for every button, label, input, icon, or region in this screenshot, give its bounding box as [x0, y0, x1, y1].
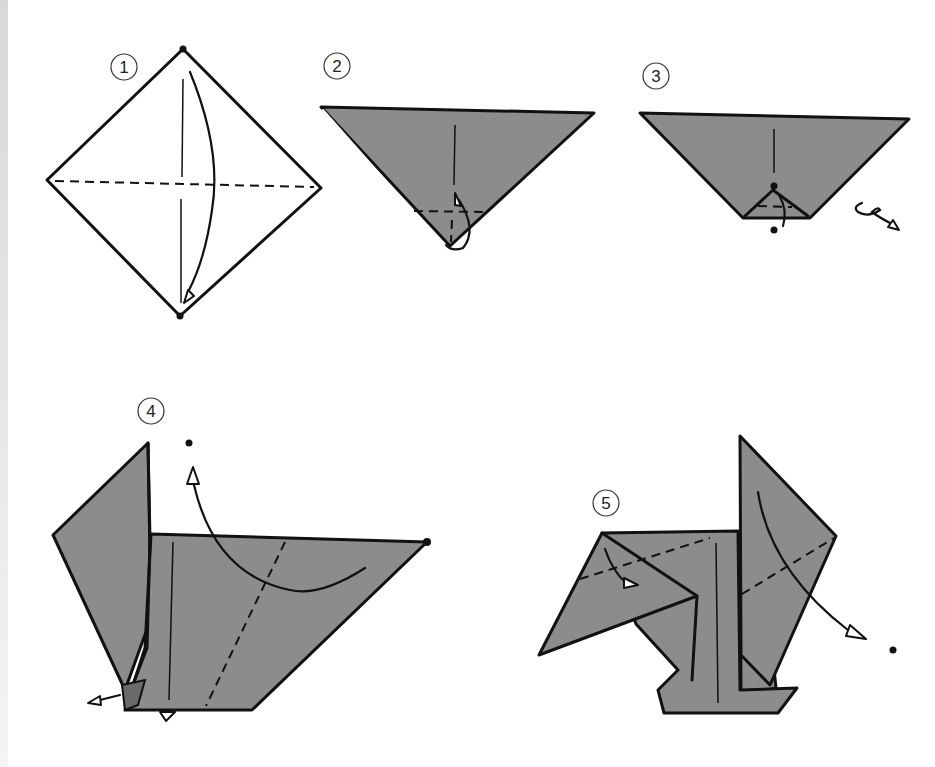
step-4-corner-dot — [423, 538, 431, 546]
step-3-turn-over-arrow-icon — [856, 203, 892, 224]
step-5: 5 — [539, 436, 897, 713]
step-1: 1 — [47, 46, 321, 320]
step-3: 3 — [640, 63, 909, 234]
origami-diagram: 1 2 3 — [0, 0, 935, 767]
step-4-left-flap — [53, 443, 151, 690]
step-2-number-badge: 2 — [324, 53, 350, 79]
step-4-bottom-arrowhead-icon — [160, 712, 175, 721]
step-3-upper-dot — [771, 183, 778, 190]
step-3-turn-over-arrowhead-icon — [888, 220, 899, 230]
step-4-small-arrowhead-icon — [88, 696, 101, 705]
step-4-number-badge: 4 — [138, 398, 164, 424]
step-2-crease-vertical — [454, 125, 455, 185]
step-4-number: 4 — [146, 402, 155, 421]
step-1-number: 1 — [119, 58, 128, 77]
step-3-number-badge: 3 — [643, 63, 669, 89]
step-3-number: 3 — [651, 67, 660, 86]
step-4-target-dot — [186, 440, 193, 447]
step-1-crease-upper — [182, 79, 183, 177]
step-5-right-arrowhead-icon — [846, 625, 866, 639]
step-5-number-badge: 5 — [593, 490, 619, 516]
step-5-target-dot — [890, 647, 897, 654]
step-1-bottom-dot — [177, 313, 184, 320]
step-4-arrowhead-icon — [187, 467, 199, 484]
step-1-number-badge: 1 — [111, 54, 137, 80]
step-1-top-dot — [180, 46, 187, 53]
step-4-small-arrow — [100, 695, 120, 700]
step-2-number: 2 — [332, 57, 341, 76]
step-5-number: 5 — [601, 494, 610, 513]
step-3-lower-dot — [771, 227, 778, 234]
step-2: 2 — [321, 53, 594, 249]
step-5-head-flap — [740, 436, 836, 685]
step-2-triangle-paper — [321, 107, 594, 246]
step-4: 4 — [53, 398, 431, 721]
